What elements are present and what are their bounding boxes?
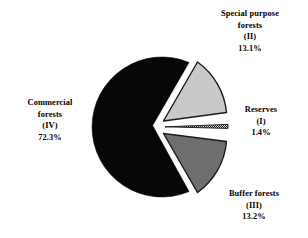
slice-label-percent: 72.3%: [2, 132, 98, 144]
slice-label-roman: (II): [196, 31, 304, 43]
slice-label-name-line1: Special purpose: [196, 8, 304, 20]
slice-label-roman: (I): [216, 116, 306, 128]
slice-label-buffer-forests: Buffer forests (III) 13.2%: [202, 188, 306, 223]
slice-label-percent: 1.4%: [216, 127, 306, 139]
slice-label-reserves: Reserves (I) 1.4%: [216, 104, 306, 139]
slice-label-commercial-forests: Commercial forests (IV) 72.3%: [2, 97, 98, 143]
slice-label-name-line1: Buffer forests: [202, 188, 306, 200]
slice-label-percent: 13.1%: [196, 43, 304, 55]
slice-label-name-line2: forests: [196, 20, 304, 32]
slice-label-name-line1: Commercial: [2, 97, 98, 109]
slice-label-name-line2: forests: [2, 109, 98, 121]
slice-label-name-line1: Reserves: [216, 104, 306, 116]
slice-label-percent: 13.2%: [202, 211, 306, 223]
slice-label-roman: (III): [202, 200, 306, 212]
pie-chart-figure: Special purpose forests (II) 13.1% Comme…: [0, 0, 308, 238]
slice-label-roman: (IV): [2, 120, 98, 132]
slice-label-special-purpose-forests: Special purpose forests (II) 13.1%: [196, 8, 304, 54]
